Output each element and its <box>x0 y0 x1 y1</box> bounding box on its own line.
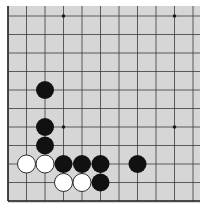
white-stone[interactable] <box>18 155 36 173</box>
black-stone[interactable] <box>36 118 54 136</box>
black-stone[interactable] <box>92 174 110 192</box>
black-stone[interactable] <box>129 155 147 173</box>
star-point-icon <box>62 125 66 129</box>
white-stone[interactable] <box>36 155 54 173</box>
board-background <box>8 6 200 203</box>
go-board[interactable] <box>0 0 208 208</box>
black-stone[interactable] <box>36 81 54 99</box>
white-stone[interactable] <box>73 174 91 192</box>
star-point-icon <box>173 14 177 18</box>
black-stone[interactable] <box>73 155 91 173</box>
star-point-icon <box>173 125 177 129</box>
white-stone[interactable] <box>55 174 73 192</box>
star-point-icon <box>62 14 66 18</box>
black-stone[interactable] <box>55 155 73 173</box>
black-stone[interactable] <box>92 155 110 173</box>
black-stone[interactable] <box>36 137 54 155</box>
